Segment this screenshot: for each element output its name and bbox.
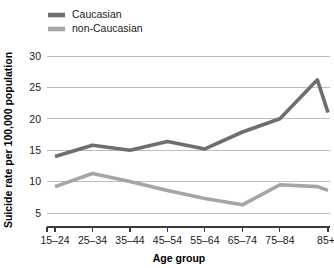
y-tick-label-30: 30 xyxy=(29,50,41,62)
y-tick-label-20: 20 xyxy=(29,113,41,125)
x-axis-tick-labels: 15–2425–3435–4445–5455–6465–7475–8485+ xyxy=(40,234,334,246)
y-axis-tick-labels: 51015202530 xyxy=(29,50,41,219)
x-tick-label-0: 15–24 xyxy=(40,234,69,246)
y-tick-label-5: 5 xyxy=(35,207,41,219)
data-series-group xyxy=(55,80,328,205)
x-tick-label-6: 75–84 xyxy=(265,234,294,246)
x-tick-label-7: 85+ xyxy=(317,234,334,246)
suicide-rate-line-chart: 51015202530 15–2425–3435–4445–5455–6465–… xyxy=(0,0,334,268)
series-line-non-caucasian xyxy=(55,173,328,204)
gridlines xyxy=(47,56,330,213)
x-tick-label-5: 65–74 xyxy=(228,234,257,246)
chart-container: 51015202530 15–2425–3435–4445–5455–6465–… xyxy=(0,0,334,268)
y-tick-label-10: 10 xyxy=(29,175,41,187)
x-axis-title: Age group xyxy=(153,252,206,264)
x-tick-label-4: 55–64 xyxy=(190,234,219,246)
legend-label-caucasian: Caucasian xyxy=(72,8,122,20)
x-tick-label-3: 45–54 xyxy=(153,234,182,246)
x-axis xyxy=(47,227,330,232)
y-tick-label-15: 15 xyxy=(29,144,41,156)
legend-label-non-caucasian: non-Caucasian xyxy=(72,22,143,34)
y-tick-label-25: 25 xyxy=(29,81,41,93)
x-tick-label-1: 25–34 xyxy=(78,234,107,246)
series-line-caucasian xyxy=(55,80,328,157)
chart-legend: Caucasiannon-Caucasian xyxy=(48,8,143,34)
y-axis-title: Suicide rate per 100,000 population xyxy=(2,52,14,228)
x-tick-label-2: 35–44 xyxy=(115,234,144,246)
